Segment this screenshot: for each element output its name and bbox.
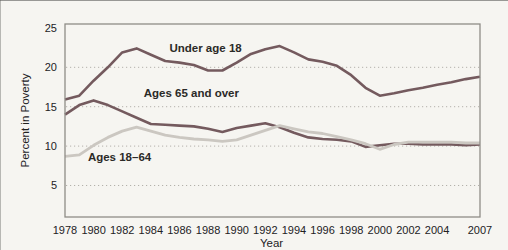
y-tick-labels: 510152025	[45, 22, 57, 192]
x-tick-2007: 2007	[468, 224, 492, 236]
x-tick-1986: 1986	[167, 224, 191, 236]
y-tick-20: 20	[45, 61, 57, 73]
x-tick-1982: 1982	[110, 224, 134, 236]
x-tick-2002: 2002	[396, 224, 420, 236]
series-label-ages-65-and-over: Ages 65 and over	[144, 87, 240, 99]
x-tick-2000: 2000	[368, 224, 392, 236]
y-tick-10: 10	[45, 140, 57, 152]
series-label-ages-18-64: Ages 18–64	[88, 151, 152, 163]
poverty-line-chart: 510152025 197819801982198419861988199019…	[0, 0, 508, 250]
x-tick-1988: 1988	[196, 224, 220, 236]
series-line-under-age-18	[65, 46, 480, 100]
x-tick-labels: 1978198019821984198619881990199219941996…	[53, 224, 492, 236]
x-tick-1984: 1984	[139, 224, 163, 236]
x-tick-1996: 1996	[310, 224, 334, 236]
y-tick-15: 15	[45, 101, 57, 113]
x-tick-1998: 1998	[339, 224, 363, 236]
series-lines	[65, 46, 480, 156]
y-axis-title: Percent in Poverty	[19, 73, 31, 167]
plot-area-border	[65, 24, 480, 217]
series-line-ages-65-and-over	[65, 100, 480, 146]
x-axis-title: Year	[260, 237, 283, 249]
x-tick-1978: 1978	[53, 224, 77, 236]
series-label-under-age-18: Under age 18	[169, 42, 242, 54]
x-tick-1980: 1980	[81, 224, 105, 236]
y-tick-25: 25	[45, 22, 57, 34]
x-tick-2004: 2004	[425, 224, 449, 236]
y-tick-5: 5	[51, 179, 57, 191]
x-tick-1992: 1992	[253, 224, 277, 236]
x-tick-1990: 1990	[224, 224, 248, 236]
x-tick-1994: 1994	[282, 224, 306, 236]
